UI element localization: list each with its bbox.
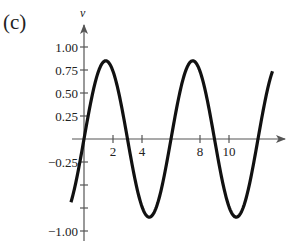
x-tick-label: 4 — [139, 144, 146, 159]
x-tick-label: 10 — [223, 144, 236, 159]
chart: (c) v 24810 1.000.750.500.25−0.25−1.00 — [0, 0, 288, 250]
y-tick-label: −0.25 — [48, 155, 78, 170]
panel-label: (c) — [3, 10, 26, 34]
x-tick-label: 2 — [110, 144, 117, 159]
y-tick-label: 0.25 — [55, 109, 78, 124]
y-tick-label: 0.50 — [55, 86, 78, 101]
y-axis-label: v — [80, 6, 86, 20]
x-tick-label: 8 — [197, 144, 204, 159]
y-tick-label: 1.00 — [55, 40, 78, 55]
y-tick-label: −1.00 — [48, 224, 78, 239]
y-tick-label: 0.75 — [55, 63, 78, 78]
